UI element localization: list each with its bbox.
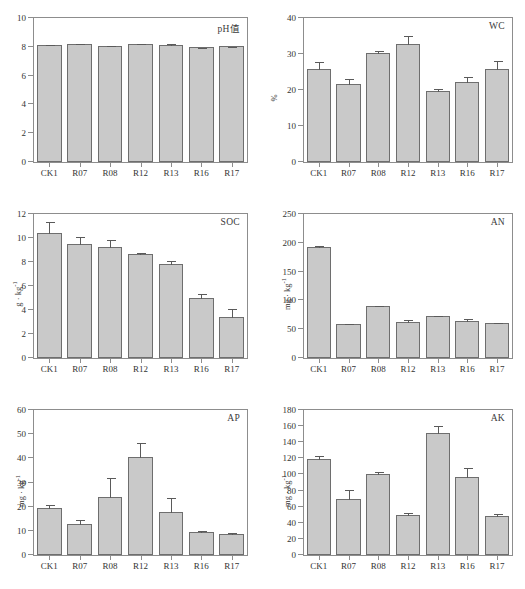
bar-column bbox=[67, 410, 92, 555]
error-bar bbox=[110, 478, 111, 498]
bar bbox=[336, 84, 360, 162]
bar-column bbox=[219, 410, 244, 555]
x-axis-tick-label: CK1 bbox=[307, 561, 331, 571]
x-axis-tick-label: R07 bbox=[67, 364, 92, 374]
x-axis-tick-label: R17 bbox=[485, 168, 509, 178]
y-axis-tick-label: 0 bbox=[292, 353, 297, 363]
bar-column bbox=[67, 18, 92, 162]
x-axis-tick bbox=[408, 162, 409, 167]
bar bbox=[336, 324, 360, 358]
x-axis-labels: CK1R07R08R12R13R16R17 bbox=[34, 168, 247, 178]
figure-grid: pH值0246810CK1R07R08R12R13R16R17%WC010203… bbox=[0, 0, 525, 589]
bar bbox=[128, 44, 153, 162]
bar-column bbox=[307, 18, 331, 162]
y-axis-tick-label: 2 bbox=[22, 128, 27, 138]
y-axis-tick-label: 40 bbox=[17, 453, 26, 463]
x-axis-tick bbox=[408, 358, 409, 363]
y-axis-tick-label: 0 bbox=[292, 157, 297, 167]
x-axis-tick-label: R12 bbox=[396, 364, 420, 374]
bar bbox=[426, 316, 450, 358]
x-axis-tick bbox=[319, 162, 320, 167]
x-axis-tick bbox=[171, 162, 172, 167]
error-bar bbox=[201, 48, 202, 49]
error-bar bbox=[201, 531, 202, 533]
bar bbox=[485, 516, 509, 555]
x-axis-tick-label: R13 bbox=[159, 168, 184, 178]
y-axis-tick-label: 0 bbox=[22, 157, 27, 167]
bar-column bbox=[307, 410, 331, 555]
x-axis-tick bbox=[171, 358, 172, 363]
plot-inner: WC010203040CK1R07R08R12R13R16R17 bbox=[304, 18, 512, 162]
error-bar bbox=[201, 294, 202, 299]
x-axis-tick-label: R08 bbox=[98, 364, 123, 374]
x-axis-tick-label: R12 bbox=[396, 168, 420, 178]
x-axis-tick bbox=[110, 162, 111, 167]
bar-series bbox=[34, 18, 247, 162]
x-axis-tick bbox=[110, 555, 111, 560]
bar bbox=[219, 317, 244, 358]
bar-column bbox=[366, 18, 390, 162]
bar-column bbox=[219, 18, 244, 162]
y-axis-tick-label: 8 bbox=[22, 42, 27, 52]
y-axis-tick-label: 50 bbox=[17, 429, 26, 439]
bar bbox=[67, 524, 92, 555]
x-axis-tick bbox=[497, 162, 498, 167]
plot-area: AN050100150200250CK1R07R08R12R13R16R17 bbox=[303, 213, 513, 359]
error-bar bbox=[408, 320, 409, 323]
bar-column bbox=[336, 18, 360, 162]
x-axis-tick bbox=[80, 358, 81, 363]
bar bbox=[98, 247, 123, 358]
x-axis-tick bbox=[171, 555, 172, 560]
x-axis-tick-label: R16 bbox=[189, 168, 214, 178]
bar bbox=[219, 534, 244, 556]
error-bar bbox=[232, 47, 233, 48]
error-bar bbox=[140, 44, 141, 45]
bar bbox=[98, 46, 123, 162]
bar-column bbox=[159, 18, 184, 162]
error-bar bbox=[467, 319, 468, 322]
x-axis-tick-label: R17 bbox=[485, 561, 509, 571]
chart-panel-ph: pH值0246810CK1R07R08R12R13R16R17 bbox=[0, 0, 262, 196]
error-bar bbox=[49, 505, 50, 509]
x-axis-tick bbox=[319, 358, 320, 363]
bar-column bbox=[128, 214, 153, 358]
x-axis-labels: CK1R07R08R12R13R16R17 bbox=[304, 364, 512, 374]
x-axis-tick-label: R07 bbox=[67, 561, 92, 571]
y-axis-tick-label: 10 bbox=[17, 233, 26, 243]
y-axis-tick-label: 100 bbox=[283, 469, 297, 479]
x-axis-labels: CK1R07R08R12R13R16R17 bbox=[304, 561, 512, 571]
x-axis-tick-label: CK1 bbox=[37, 168, 62, 178]
y-axis-tick-label: 20 bbox=[287, 85, 296, 95]
x-axis-tick bbox=[438, 358, 439, 363]
y-axis-tick-label: 6 bbox=[22, 71, 27, 81]
error-bar bbox=[110, 46, 111, 47]
error-bar bbox=[438, 89, 439, 92]
x-axis-tick bbox=[408, 555, 409, 560]
bar bbox=[159, 264, 184, 358]
x-axis-tick-label: R08 bbox=[366, 561, 390, 571]
bar bbox=[128, 457, 153, 555]
error-bar bbox=[349, 490, 350, 500]
bar-column bbox=[396, 214, 420, 358]
x-axis-tick bbox=[438, 162, 439, 167]
error-bar bbox=[378, 306, 379, 307]
bar-column bbox=[219, 214, 244, 358]
error-bar bbox=[497, 61, 498, 70]
bar-column bbox=[37, 18, 62, 162]
y-axis-tick-label: 40 bbox=[287, 13, 296, 23]
x-axis-tick bbox=[201, 162, 202, 167]
error-bar bbox=[232, 309, 233, 319]
bar-series bbox=[304, 18, 512, 162]
x-axis-tick bbox=[378, 555, 379, 560]
x-axis-tick-label: R16 bbox=[455, 168, 479, 178]
plot-inner: pH值0246810CK1R07R08R12R13R16R17 bbox=[34, 18, 247, 162]
x-axis-tick-label: R16 bbox=[455, 561, 479, 571]
error-bar bbox=[80, 237, 81, 245]
bar-column bbox=[37, 214, 62, 358]
bar-column bbox=[307, 214, 331, 358]
x-axis-tick-label: R17 bbox=[219, 364, 244, 374]
plot-area: AK020406080100120140160180CK1R07R08R12R1… bbox=[303, 409, 513, 556]
bar-column bbox=[485, 18, 509, 162]
x-axis-tick bbox=[110, 358, 111, 363]
error-bar bbox=[467, 77, 468, 84]
